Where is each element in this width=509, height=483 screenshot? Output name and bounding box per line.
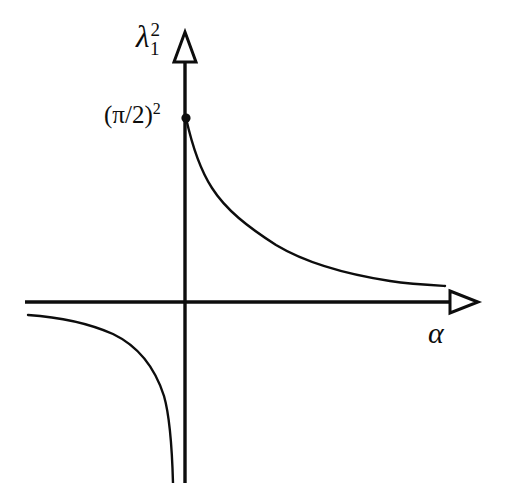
y-axis-label-subscript: 1 — [150, 38, 160, 59]
intercept-value-label: (π/2)2 — [104, 101, 161, 127]
intercept-value-superscript: 2 — [153, 100, 161, 117]
intercept-value-base: (π/2) — [104, 101, 153, 128]
curve-branch-upper-right — [186, 118, 445, 286]
curve-branch-lower-left — [28, 315, 173, 483]
x-axis-arrow-icon — [450, 291, 478, 313]
y-axis-arrow-icon — [174, 32, 196, 62]
math-figure: λ21 α (π/2)2 — [0, 0, 509, 483]
intercept-marker-dot-icon — [181, 113, 190, 122]
plot-canvas — [0, 0, 509, 483]
x-axis-label: α — [428, 318, 444, 348]
y-axis-label: λ21 — [136, 20, 159, 58]
y-axis-label-superscript: 2 — [150, 19, 160, 40]
y-axis-label-symbol: λ — [136, 19, 149, 54]
